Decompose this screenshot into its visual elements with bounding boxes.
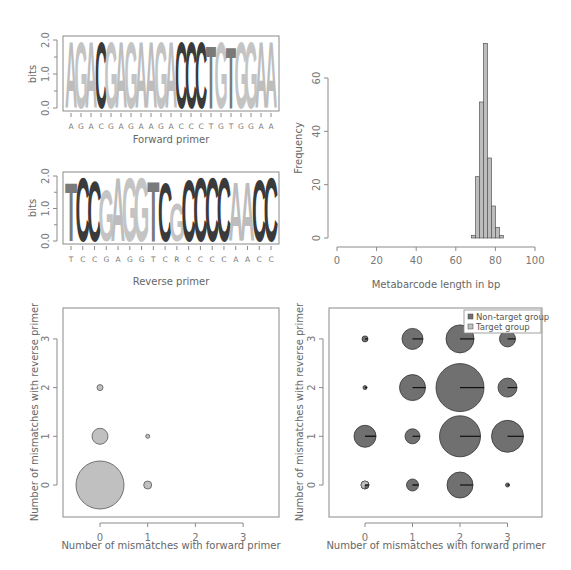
pie-bubble [506, 483, 510, 487]
non-target-swatch-icon [468, 314, 473, 319]
y-axis-title: bits [27, 65, 38, 83]
x-axis: 020406080100 [334, 247, 545, 266]
sequence-base-label: T [228, 122, 234, 131]
x-tick-label: 40 [410, 255, 423, 266]
y-tick-label: 2 [306, 384, 317, 390]
bubble [76, 461, 124, 509]
y-tick-label: 40 [311, 125, 322, 138]
sequence-base-label: G [78, 122, 84, 131]
sequence-base-label: G [139, 255, 145, 264]
sequence-base-label: G [158, 122, 164, 131]
sequence-base-label: G [103, 255, 109, 264]
y-axis: 0204060 [311, 72, 328, 242]
sequence-base-label: C [188, 122, 193, 131]
pie-bubble [405, 429, 420, 444]
bubble [146, 434, 150, 438]
y-tick-label: 1 [40, 433, 51, 439]
y-tick-label: 20 [311, 178, 322, 191]
bubble [92, 428, 108, 444]
sequence-base-label: C [92, 255, 97, 264]
y-tick-label: 3 [306, 336, 317, 342]
histogram-bar [495, 227, 499, 238]
y-tick-label: 3 [40, 336, 51, 342]
x-tick-label: 0 [334, 255, 340, 266]
y-tick-label: 0 [311, 235, 322, 241]
y-axis-title: Number of mismatches with reverse primer [29, 302, 40, 521]
y-tick-label: 0 [40, 482, 51, 488]
pie-bubble [400, 375, 426, 401]
length-histogram: 0204060 020406080100 Frequency Metabarco… [293, 43, 545, 290]
sequence-base-label: A [68, 122, 74, 131]
sequence-base-label: A [138, 122, 144, 131]
y-axis: 0.01.02.0 [40, 32, 57, 116]
target-mismatch-bubble-chart: 0123 0123 Number of mismatches with reve… [29, 302, 281, 551]
pie-bubble [363, 386, 367, 390]
sequence-base-label: A [168, 122, 174, 131]
sequence-base-label: T [208, 122, 214, 131]
pie-bubble [361, 481, 369, 489]
sequence-base-label: T [150, 255, 156, 264]
sequence-base-label: A [258, 122, 264, 131]
y-axis: 0.01.02.0 [40, 168, 57, 249]
y-tick-label: 1.0 [40, 201, 51, 217]
sequence-base-label: R [174, 255, 179, 264]
y-tick-label: 2.0 [40, 168, 51, 184]
y-tick-label: 2 [40, 384, 51, 390]
sequence-base-label: T [68, 255, 74, 264]
y-axis: 0123 [40, 336, 57, 488]
sequence-base-label: C [198, 122, 203, 131]
legend: Non-target group Target group [464, 310, 549, 333]
histogram-bar [484, 43, 488, 238]
sequence-base-label: C [178, 122, 183, 131]
bubble [97, 385, 103, 391]
pie-bubble [498, 378, 517, 397]
x-tick-label: 100 [525, 255, 544, 266]
logo-letters: TCCGAGGTCGCCCCAACC [65, 160, 278, 261]
sequence-base-label: G [218, 122, 224, 131]
pie-bubble [436, 364, 484, 412]
figure: AGACGAGAAGACCCTGTGGAA 0.01.02.0 AGACGAGA… [0, 0, 571, 570]
histogram-bar [476, 177, 480, 238]
y-axis-title: bits [27, 199, 38, 217]
histogram-bar [491, 206, 495, 238]
bubble [144, 481, 152, 489]
pie-bubble [447, 472, 473, 498]
pie-bubble [362, 336, 368, 342]
logo-letters: AGACGAGAAGACCCTGTGGAA [65, 23, 277, 127]
x-axis-title: Reverse primer [133, 276, 211, 287]
histogram-bar [480, 102, 484, 238]
logo-letter-C: C [264, 160, 278, 261]
sequence-base-label: C [221, 255, 226, 264]
all-mismatch-pie-chart: 0123 0123 Non-target group Target group … [294, 302, 549, 551]
y-axis-title: Frequency [293, 122, 304, 174]
pie-bubble [354, 425, 376, 447]
sequence-base-label: A [233, 255, 239, 264]
y-tick-label: 1 [306, 433, 317, 439]
forward-primer-logo: AGACGAGAAGACCCTGTGGAA 0.01.02.0 AGACGAGA… [27, 23, 279, 145]
sequence-base-label: A [88, 122, 94, 131]
legend-label-non-target: Non-target group [476, 312, 549, 322]
y-tick-label: 2.0 [40, 32, 51, 48]
sequence-base-label: C [268, 255, 273, 264]
reverse-primer-logo: TCCGAGGTCGCCCCAACC 0.01.02.0 TCCGAGGTCRC… [27, 160, 279, 287]
bubbles [76, 385, 152, 509]
sequence-base-label: A [148, 122, 154, 131]
sequence-base-label: C [198, 255, 203, 264]
y-tick-label: 0.0 [40, 100, 51, 116]
sequence-base-label: C [162, 255, 167, 264]
histogram-bar [499, 235, 503, 238]
pie-bubble [440, 416, 481, 457]
sequence-base-label: G [127, 255, 133, 264]
histogram-bars [472, 43, 504, 238]
pie-bubble [402, 328, 423, 349]
y-tick-label: 0 [306, 482, 317, 488]
legend-label-target: Target group [475, 322, 530, 332]
sequence-base-label: A [268, 122, 274, 131]
x-axis-title: Number of mismatches with forward primer [326, 540, 546, 551]
x-axis-title: Metabarcode length in bp [372, 279, 501, 290]
histogram-bar [472, 235, 476, 238]
pie-bubble [407, 479, 419, 491]
pie-bubbles [354, 325, 524, 498]
histogram-bar [487, 158, 491, 238]
x-tick-label: 80 [489, 255, 502, 266]
